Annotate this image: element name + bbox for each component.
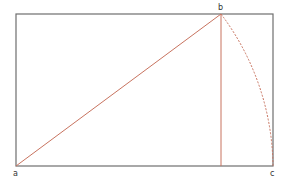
- golden-rectangle-diagram: a b c: [0, 0, 287, 182]
- point-label-b: b: [218, 3, 223, 12]
- point-label-c: c: [270, 169, 274, 178]
- outer-frame: [16, 14, 273, 166]
- diagonal-a-to-b: [16, 14, 221, 166]
- point-label-a: a: [13, 169, 18, 178]
- dashed-arc-b-to-c: [221, 14, 273, 166]
